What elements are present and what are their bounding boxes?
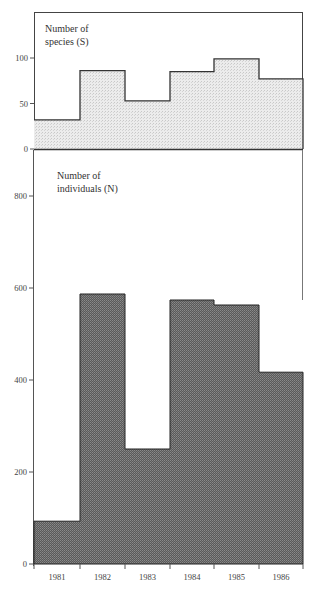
species-individuals-chart: Number of species (S) 050100 Number of i… (0, 0, 313, 589)
individuals-step-area (34, 294, 303, 564)
x-tick-label: 1981 (49, 572, 66, 582)
y-tick-label: 50 (20, 99, 29, 109)
individuals-title-line2: individuals (N) (57, 183, 118, 195)
species-y-axis: 050100 (15, 53, 34, 154)
species-title-line1: Number of (45, 23, 89, 34)
x-tick-label: 1984 (184, 572, 202, 582)
y-tick-label: 600 (14, 283, 27, 293)
y-tick-label: 400 (14, 375, 27, 385)
species-step-area (34, 59, 303, 149)
y-tick-label: 0 (23, 559, 27, 569)
y-tick-label: 100 (15, 53, 28, 63)
y-tick-label: 200 (14, 467, 27, 477)
x-tick-label: 1983 (139, 572, 156, 582)
x-axis: 198119821983198419851986 (34, 564, 303, 582)
x-tick-label: 1985 (228, 572, 245, 582)
individuals-panel: Number of individuals (N) 0200400600800 … (14, 150, 303, 582)
species-panel: Number of species (S) 050100 (15, 13, 303, 155)
species-title-line2: species (S) (45, 36, 89, 48)
y-tick-label: 800 (14, 191, 27, 201)
x-tick-label: 1982 (94, 572, 111, 582)
y-tick-label: 0 (24, 144, 28, 154)
individuals-title-line1: Number of (57, 170, 101, 181)
x-tick-label: 1986 (273, 572, 290, 582)
individuals-y-axis: 0200400600800 (14, 191, 33, 569)
